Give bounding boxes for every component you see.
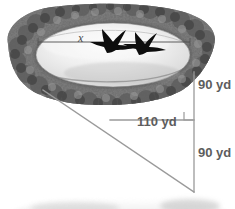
diagram-canvas [0,0,235,209]
label-vertical-bottom: 90 yd [198,145,231,160]
label-vertical-top: 90 yd [198,77,231,92]
bottom-photo-strip [0,196,235,209]
hypotenuse-line [43,90,194,192]
right-angle-marker-icon [184,112,193,120]
label-unknown-x: x [78,31,83,46]
label-horizontal-middle: 110 yd [137,114,177,129]
lake-width-diagram: 90 yd 110 yd 90 yd x [0,0,235,209]
lake-water [34,21,192,89]
